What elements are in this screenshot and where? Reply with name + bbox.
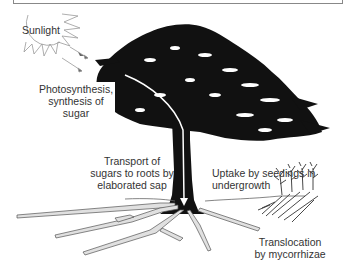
uptake-line-2: undergrowth [212, 179, 330, 191]
photosynthesis-line-1: Photosynthesis, [38, 83, 114, 95]
sun-icon [24, 14, 88, 72]
transport-label: Transport of sugars to roots by elaborat… [88, 155, 176, 191]
uptake-label: Uptake by seedings in undergrowth [212, 167, 330, 191]
photosynthesis-label: Photosynthesis, synthesis of sugar [38, 83, 114, 119]
uptake-line-1: Uptake by seedings in [212, 167, 330, 179]
tree-canopy [95, 24, 330, 141]
transport-line-2: sugars to roots by [88, 167, 176, 179]
transport-line-1: Transport of [88, 155, 176, 167]
sunlight-label: Sunlight [22, 24, 60, 36]
translocation-line-2: by mycorrhizae [248, 248, 332, 260]
sunlight-text: Sunlight [22, 24, 60, 36]
ground-line [125, 196, 305, 201]
photosynthesis-line-3: sugar [38, 107, 114, 119]
translocation-line-1: Translocation [248, 236, 332, 248]
diagram-canvas [0, 0, 346, 270]
photosynthesis-line-2: synthesis of [38, 95, 114, 107]
transport-line-3: elaborated sap [88, 179, 176, 191]
roots [17, 203, 260, 255]
translocation-label: Translocation by mycorrhizae [248, 236, 332, 260]
